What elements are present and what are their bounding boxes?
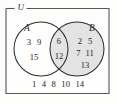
region-a-only-row: 15 xyxy=(16,53,52,62)
region-outside-row: 1 4 8 10 14 xyxy=(20,80,96,89)
element-value: 5 xyxy=(88,37,92,46)
element-value: 9 xyxy=(37,38,41,47)
element-value: 11 xyxy=(86,49,94,58)
element-value: 2 xyxy=(78,37,82,46)
element-value: 10 xyxy=(61,80,70,89)
element-value: 13 xyxy=(81,61,90,70)
region-b-only-row: 13 xyxy=(68,61,102,70)
venn-diagram: U A B 3 9 15 6 12 2 5 7 11 13 1 4 8 10 1… xyxy=(0,0,116,104)
element-value: 4 xyxy=(42,80,46,89)
element-value: 12 xyxy=(55,52,64,61)
region-intersection-row: 6 xyxy=(51,37,67,46)
element-value: 6 xyxy=(57,37,61,46)
universal-set-label: U xyxy=(16,3,26,12)
element-value: 14 xyxy=(75,80,84,89)
region-b-only-row: 2 5 xyxy=(68,37,102,46)
region-intersection-row: 12 xyxy=(51,52,67,61)
element-value: 3 xyxy=(27,38,31,47)
element-value: 15 xyxy=(30,53,39,62)
element-value: 8 xyxy=(52,80,56,89)
element-value: 1 xyxy=(32,80,36,89)
set-a-label: A xyxy=(24,24,30,34)
element-value: 7 xyxy=(76,49,80,58)
region-b-only-row: 7 11 xyxy=(68,49,102,58)
set-b-label: B xyxy=(89,24,95,34)
set-a-circle xyxy=(14,22,68,76)
region-a-only-row: 3 9 xyxy=(16,38,52,47)
